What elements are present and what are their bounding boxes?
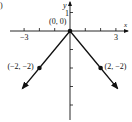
data-point	[37, 66, 42, 71]
x-axis-label: x	[123, 21, 128, 29]
point-label: (−2, −2)	[7, 62, 34, 71]
x-tick-label: −3	[20, 33, 29, 42]
data-point	[98, 66, 103, 71]
x-tick-label: 3	[114, 33, 118, 42]
abs-value-graph: ) xy−331(0, 0)(−2, −2)(2, −2)	[0, 0, 132, 122]
series-left-ray	[23, 31, 70, 88]
part-marker: )	[0, 1, 3, 10]
data-point	[68, 29, 73, 34]
series-right-ray	[70, 31, 117, 88]
point-label: (0, 0)	[49, 17, 67, 26]
point-label: (2, −2)	[105, 62, 127, 71]
